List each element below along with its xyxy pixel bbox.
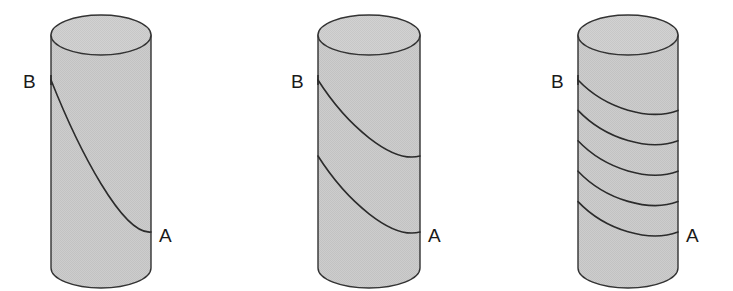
cylinder-top-cap	[318, 15, 420, 55]
label-b: B	[23, 71, 36, 92]
label-a: A	[686, 225, 699, 246]
cylinder-body	[578, 35, 678, 288]
cylinder-top-cap	[51, 15, 151, 55]
cylinder-body	[318, 35, 420, 288]
cylinders-diagram: BA BA BA	[0, 0, 733, 291]
label-b: B	[551, 71, 564, 92]
label-a: A	[428, 225, 441, 246]
figure-canvas: BA BA BA	[0, 0, 733, 291]
cylinder-body	[51, 35, 151, 288]
label-a: A	[159, 225, 172, 246]
cylinder-top-cap	[578, 15, 678, 55]
label-b: B	[291, 71, 304, 92]
